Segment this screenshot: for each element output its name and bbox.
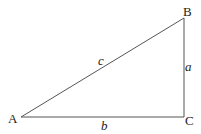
side-label-a: a	[185, 59, 192, 74]
vertex-label-a: A	[8, 111, 18, 126]
side-label-c: c	[98, 53, 104, 68]
vertex-label-c: C	[185, 113, 194, 128]
triangle-diagram: A B C c a b	[0, 0, 201, 134]
side-label-b: b	[101, 118, 108, 133]
vertex-label-b: B	[183, 4, 192, 19]
